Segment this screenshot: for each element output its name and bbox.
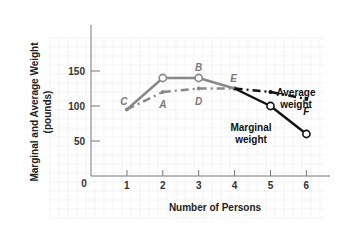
svg-text:Marginal: Marginal	[230, 122, 271, 133]
x-tick-label: 5	[268, 180, 274, 191]
x-tick-label: 2	[160, 180, 166, 191]
marginal-weight-label: Marginal weight	[230, 122, 271, 145]
average-weight-point	[197, 87, 201, 91]
average-weight-segment	[163, 89, 199, 93]
x-tick-label: 1	[124, 180, 130, 191]
point-label-e: E	[230, 73, 237, 84]
point-label-a: A	[158, 99, 166, 110]
marginal-weight-point	[303, 130, 310, 137]
marginal-weight-point	[267, 102, 274, 109]
x-tick-label: 3	[196, 180, 202, 191]
average-weight-point	[269, 90, 273, 94]
x-axis-title: Number of Persons	[169, 202, 262, 213]
average-weight-label: Average weight	[276, 87, 316, 110]
y-axis-title: Marginal and Average Weight	[29, 42, 40, 182]
svg-text:weight: weight	[279, 99, 312, 110]
y-tick-label: 0	[81, 178, 87, 189]
x-tick-label: 6	[304, 180, 310, 191]
marginal-weight-point	[159, 74, 166, 81]
marginal-average-weight-chart: 050100150 123456 Marginal and Average We…	[0, 0, 355, 233]
y-tick-label: 100	[68, 101, 85, 112]
point-label-b: B	[195, 62, 202, 73]
y-tick-label: 50	[74, 136, 86, 147]
svg-text:Average: Average	[276, 87, 316, 98]
point-label-d: D	[195, 96, 202, 107]
y-axis-units: (pounds)	[42, 91, 53, 134]
y-tick-label: 150	[68, 66, 85, 77]
point-label-c: C	[120, 96, 128, 107]
marginal-weight-point	[195, 74, 202, 81]
average-weight-point	[161, 90, 165, 94]
x-tick-label: 4	[232, 180, 238, 191]
svg-text:weight: weight	[234, 134, 267, 145]
